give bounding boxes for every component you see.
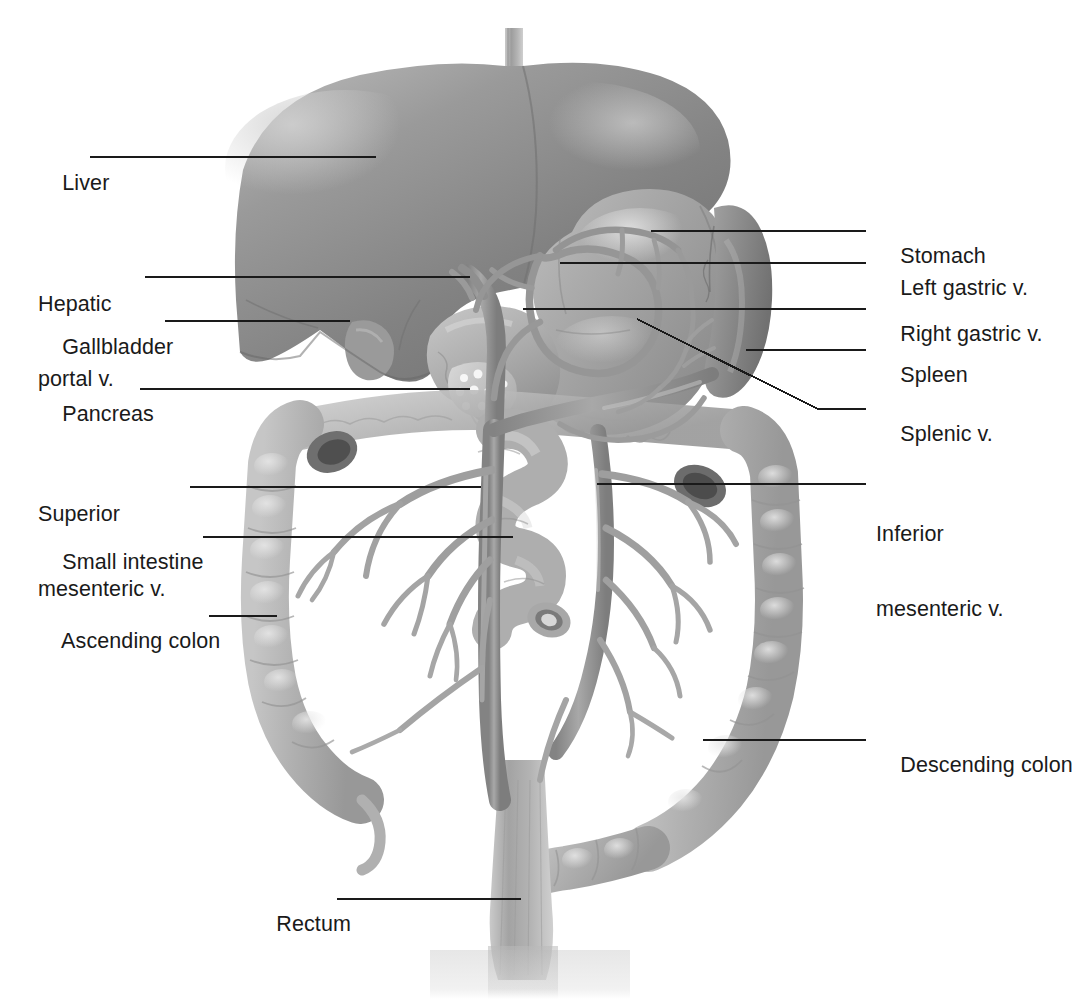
label-splenic-v-text: Splenic v.	[900, 422, 993, 446]
label-rectum: Rectum	[252, 887, 351, 962]
label-rectum-text: Rectum	[276, 912, 351, 936]
label-inferior-mesenteric-v: Inferior mesenteric v.	[876, 472, 1004, 672]
label-small-intestine-text: Small intestine	[62, 550, 203, 574]
label-gallbladder-text: Gallbladder	[62, 335, 173, 359]
label-liver: Liver	[38, 146, 109, 221]
vessel-superior-mesenteric-v	[298, 430, 500, 800]
label-small-intestine: Small intestine	[38, 525, 204, 600]
label-ascending-colon-text: Ascending colon	[61, 629, 220, 653]
label-descending-colon-text: Descending colon	[900, 753, 1073, 777]
label-gallbladder: Gallbladder	[38, 310, 173, 385]
label-superior-mesenteric-v-line1: Superior	[38, 502, 166, 527]
structure-appendix	[362, 800, 380, 870]
structure-ascending-colon	[246, 424, 380, 870]
label-spleen-text: Spleen	[900, 363, 968, 387]
label-descending-colon: Descending colon	[876, 728, 1073, 803]
label-ascending-colon: Ascending colon	[38, 604, 220, 679]
label-inferior-mesenteric-v-line1: Inferior	[876, 522, 1004, 547]
label-pancreas-text: Pancreas	[62, 402, 154, 426]
label-splenic-v: Splenic v.	[876, 397, 993, 472]
label-inferior-mesenteric-v-line2: mesenteric v.	[876, 597, 1004, 622]
label-liver-text: Liver	[62, 171, 109, 195]
label-pancreas: Pancreas	[38, 377, 154, 452]
